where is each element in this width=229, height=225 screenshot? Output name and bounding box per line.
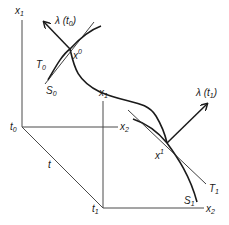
surface-S1 xyxy=(133,119,197,202)
label-S1: S1 xyxy=(184,195,195,207)
right-axes xyxy=(103,101,204,208)
optimal-trajectory-diagram: x1 x2 t0 t t1 x1 x2 λ (t0) λ (t1) x0 x1 … xyxy=(0,0,229,225)
t-axis xyxy=(22,127,103,208)
label-x1-point: x1 xyxy=(154,148,164,161)
tangent-T1 xyxy=(128,110,206,184)
label-x2-mid: x2 xyxy=(119,121,129,133)
label-x2-right: x2 xyxy=(205,203,215,215)
label-t1: t1 xyxy=(92,203,99,215)
label-t0: t0 xyxy=(10,121,17,133)
label-T1: T1 xyxy=(209,183,219,195)
label-T0: T0 xyxy=(36,59,46,71)
label-lambda-t1: λ (t1) xyxy=(195,87,217,99)
label-t-axis: t xyxy=(48,159,52,170)
lambda-t1-arrow xyxy=(167,104,207,143)
label-S0: S0 xyxy=(46,85,57,97)
label-x1-right: x1 xyxy=(98,87,108,99)
label-x1-left: x1 xyxy=(14,5,24,17)
lambda-t0-arrow xyxy=(44,22,70,49)
label-x0-point: x0 xyxy=(72,48,82,61)
label-lambda-t0: λ (t0) xyxy=(54,15,76,27)
